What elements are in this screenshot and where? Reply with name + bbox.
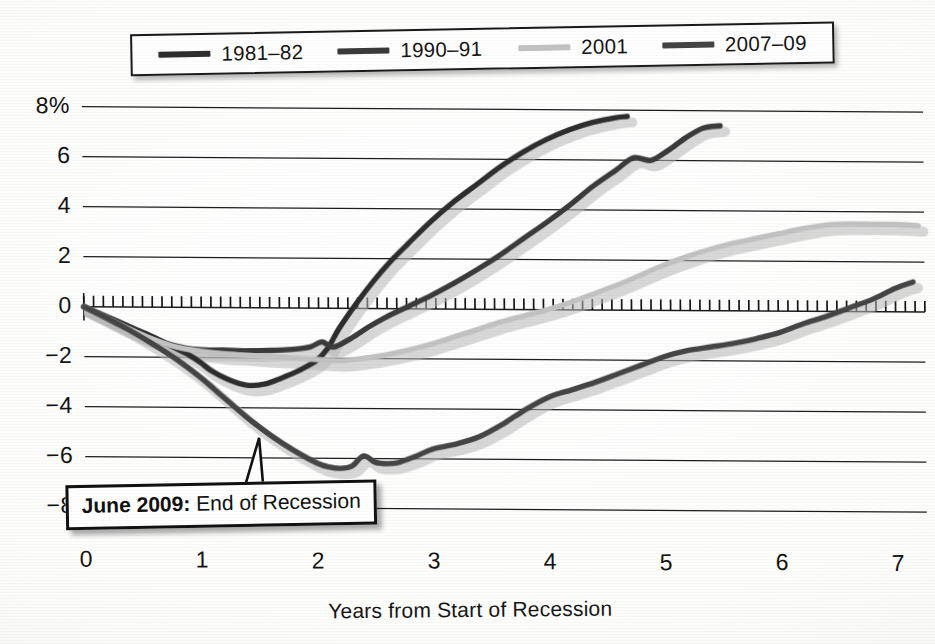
legend-entry-1981-82[interactable]: 1981–82	[132, 40, 303, 67]
x-axis-tick-label: 0	[69, 546, 103, 573]
gridline	[82, 99, 923, 121]
legend-entry-2007-09[interactable]: 2007–09	[628, 31, 807, 58]
x-axis-tick-label: 5	[649, 549, 683, 576]
y-axis-tick-label: −2	[2, 342, 72, 370]
legend-swatch-icon	[518, 44, 570, 51]
annotation-text: End of Recession	[190, 489, 361, 515]
annotation-bold-text: June 2009:	[82, 492, 191, 517]
legend-entry-2001[interactable]: 2001	[482, 34, 628, 61]
gridline	[85, 449, 926, 471]
series-lines-group	[82, 114, 921, 471]
legend-label: 2001	[581, 34, 628, 59]
zero-axis-ticks	[84, 288, 925, 321]
annotation-callout: June 2009: End of Recession	[65, 480, 377, 530]
legend-swatch-icon	[662, 42, 714, 49]
legend-swatch-icon	[337, 48, 389, 55]
y-axis-tick-label: 6	[0, 142, 70, 170]
legend-label: 1990–91	[400, 37, 482, 62]
x-axis-tick-label: 2	[301, 547, 335, 574]
chart-figure: 1981–821990–9120012007–09 8%6420−2−4−6−8…	[0, 0, 935, 644]
y-axis-tick-label: −4	[3, 392, 73, 420]
y-axis-tick-label: 4	[1, 192, 71, 220]
x-axis-tick-label: 7	[881, 550, 915, 577]
legend-swatch-icon	[158, 51, 210, 58]
series-shadow	[89, 288, 920, 477]
y-axis-tick-label: 0	[2, 292, 72, 320]
y-axis-tick-label: 2	[1, 242, 71, 270]
y-axis-tick-label: −6	[3, 442, 73, 470]
legend-label: 2007–09	[725, 31, 807, 56]
x-axis-tick-label: 3	[417, 548, 451, 575]
y-axis-tick-label: −8	[4, 492, 74, 520]
plot-area	[0, 0, 935, 644]
y-axis-tick-label: 8%	[0, 92, 70, 120]
gridline	[85, 399, 926, 421]
legend-label: 1981–82	[221, 40, 303, 65]
x-axis-tick-label: 6	[765, 549, 799, 576]
x-axis-tick-label: 1	[185, 546, 219, 573]
legend-entry-1990-91[interactable]: 1990–91	[303, 37, 482, 64]
gridline	[83, 199, 924, 221]
series-line-2001	[83, 223, 919, 363]
x-axis-tick-label: 4	[533, 548, 567, 575]
